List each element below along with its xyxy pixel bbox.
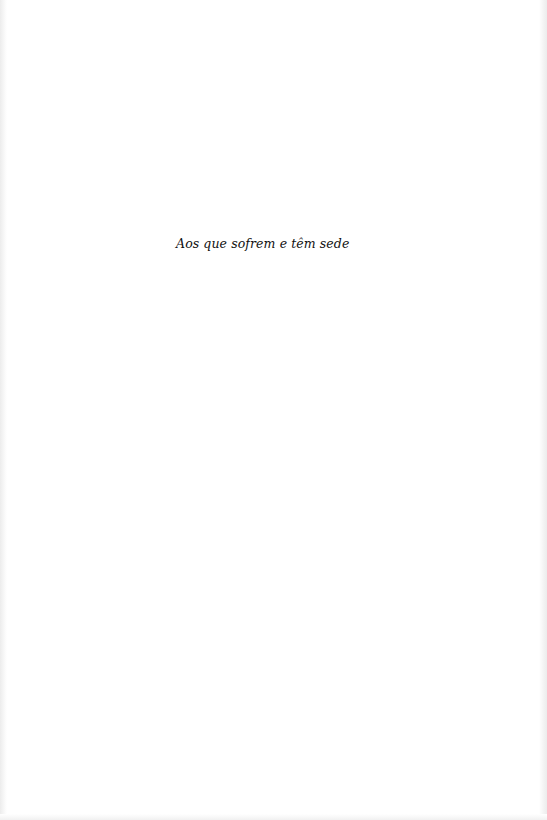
page-edge-shadow-left [0, 0, 7, 820]
page-edge-shadow-bottom [0, 814, 547, 820]
page-edge-shadow-right [539, 0, 547, 820]
dedication-text: Aos que sofrem e têm sede [176, 236, 349, 251]
book-page: Aos que sofrem e têm sede [0, 0, 547, 820]
